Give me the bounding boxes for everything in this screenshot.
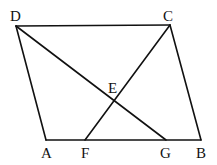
point-label-G: G	[160, 145, 171, 161]
segment-CD	[16, 25, 170, 26]
point-label-E: E	[108, 80, 117, 96]
point-label-A: A	[41, 145, 52, 161]
segment-DA	[16, 26, 46, 140]
segment-DG	[16, 26, 166, 140]
segment-CF	[85, 25, 170, 140]
point-label-B: B	[196, 145, 206, 161]
point-label-C: C	[163, 8, 173, 24]
segment-BC	[170, 25, 201, 140]
diagram-canvas: ABCDEFG	[0, 0, 217, 165]
point-label-D: D	[10, 8, 21, 24]
point-label-F: F	[81, 145, 89, 161]
geometry-figure: ABCDEFG	[0, 0, 217, 165]
